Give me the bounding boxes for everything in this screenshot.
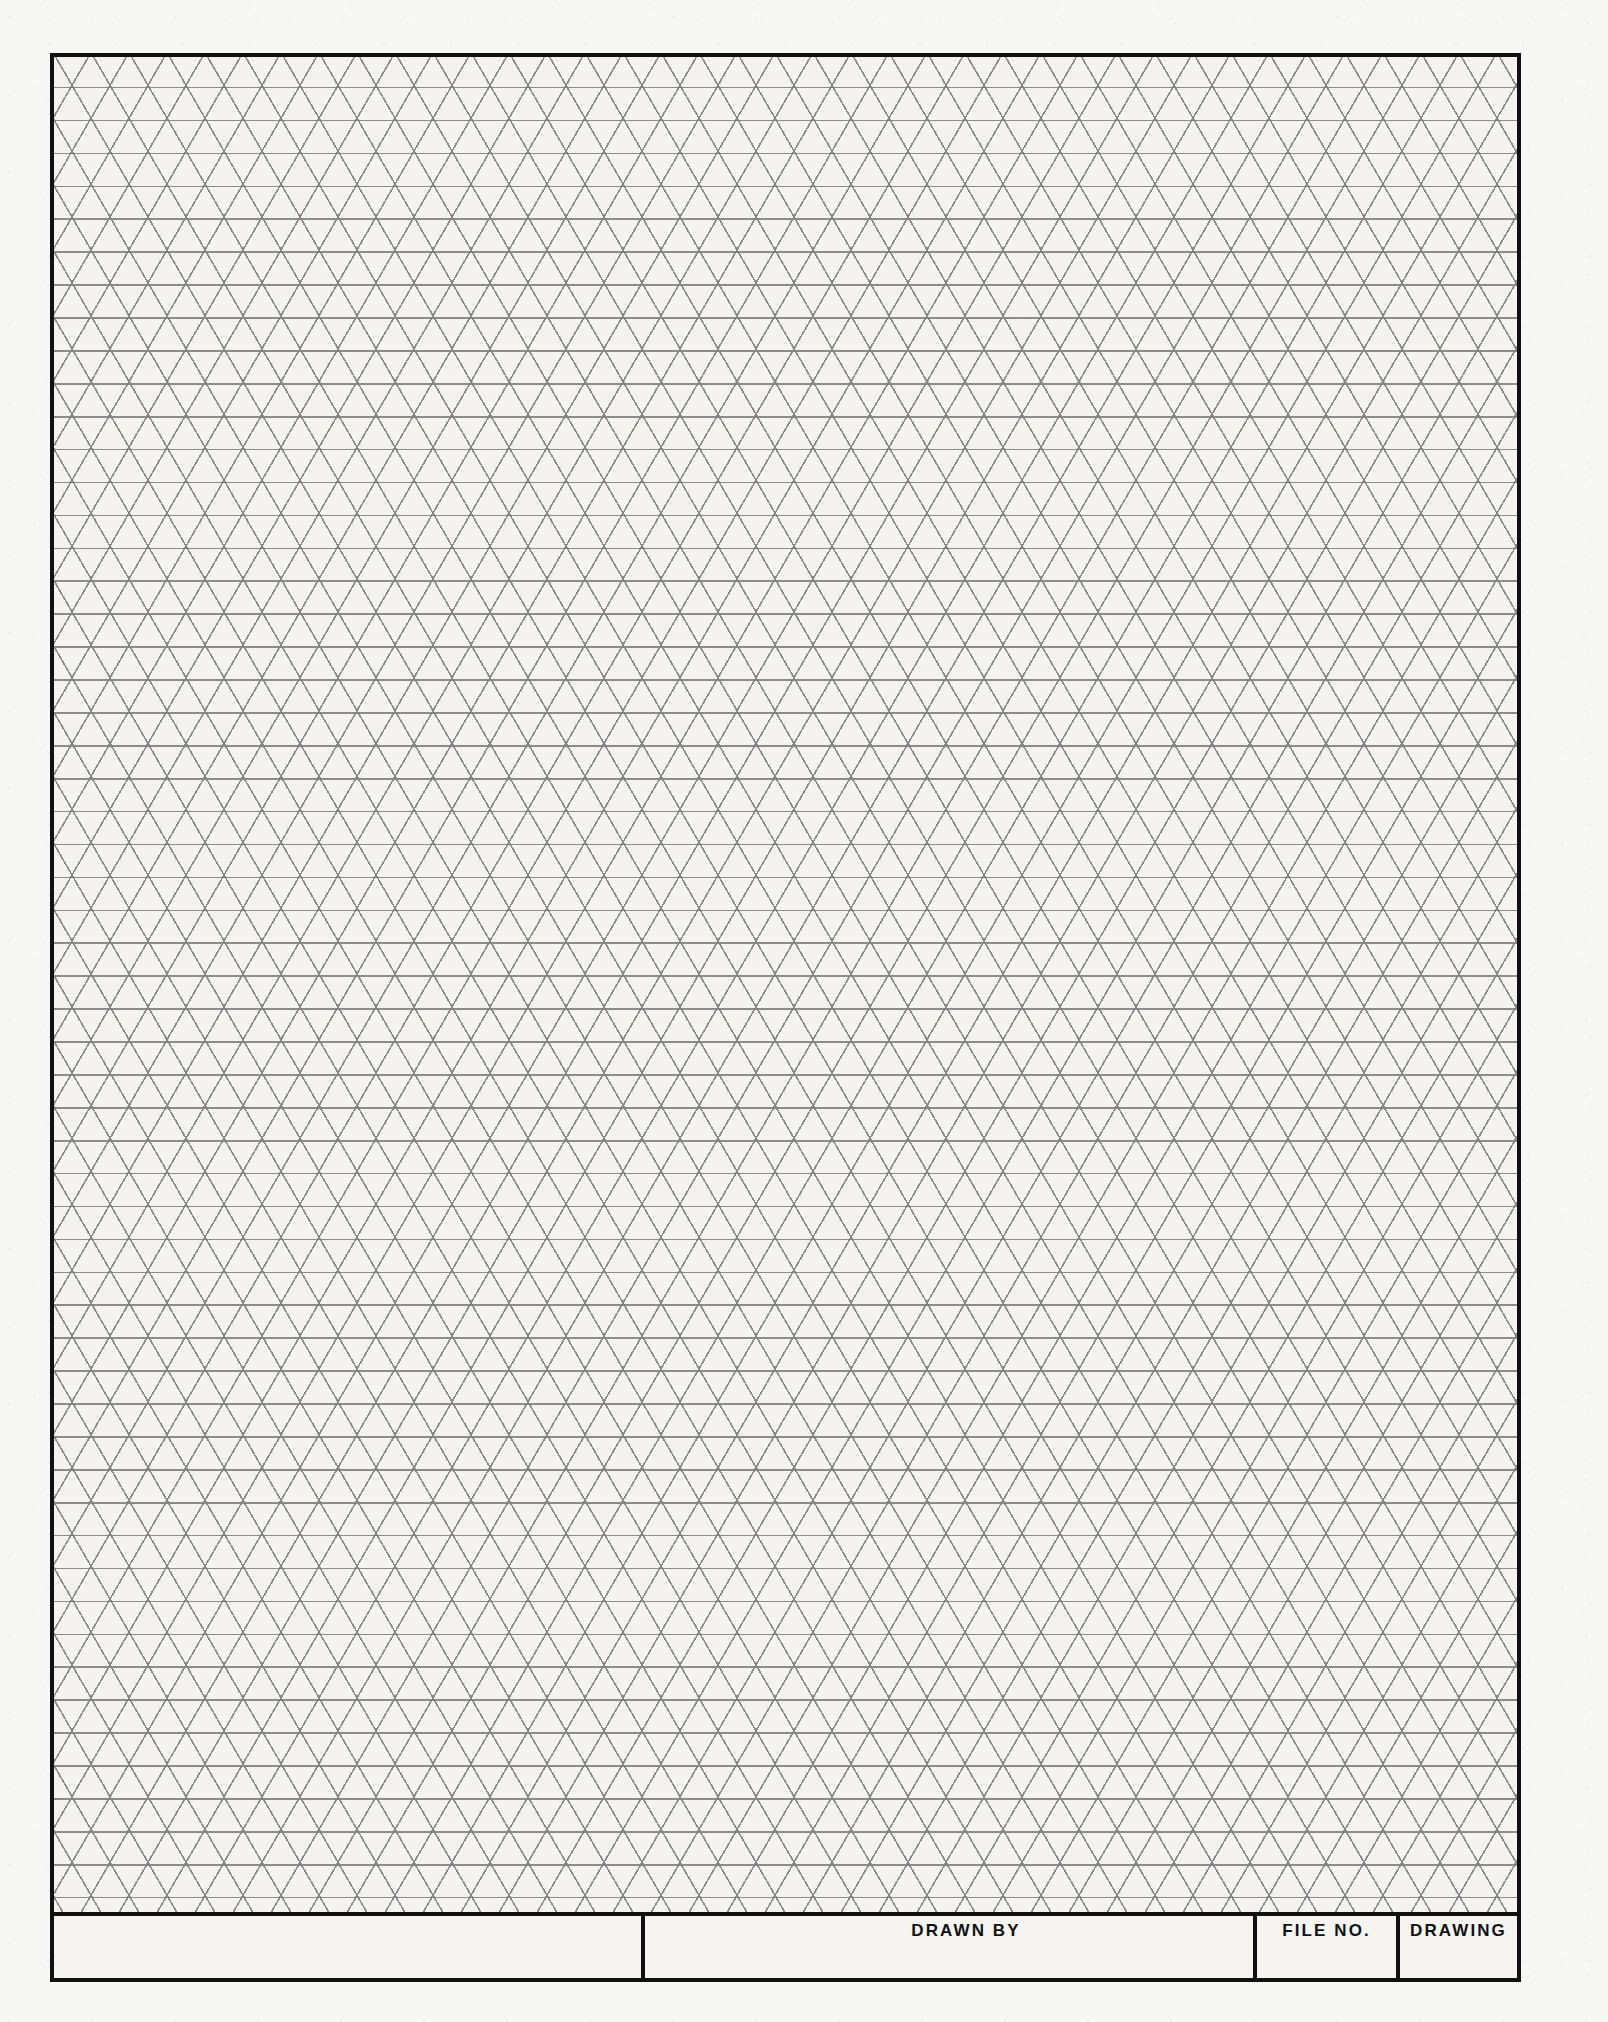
title-block-cell-blank[interactable] [54, 1916, 645, 1978]
title-block: DRAWN BY FILE NO. DRAWING [50, 1912, 1521, 1982]
title-block-cell-drawing[interactable]: DRAWING [1400, 1916, 1517, 1978]
drawing-label: DRAWING [1410, 1922, 1507, 1939]
isometric-grid-area[interactable] [54, 57, 1517, 1912]
file-no-label: FILE NO. [1282, 1922, 1371, 1939]
graph-paper-sheet: DRAWN BY FILE NO. DRAWING [0, 0, 1608, 2022]
title-block-cell-file-no[interactable]: FILE NO. [1257, 1916, 1400, 1978]
drawn-by-label: DRAWN BY [911, 1922, 1020, 1939]
isometric-grid-lines [54, 57, 1517, 1912]
title-block-cell-drawn-by[interactable]: DRAWN BY [645, 1916, 1257, 1978]
